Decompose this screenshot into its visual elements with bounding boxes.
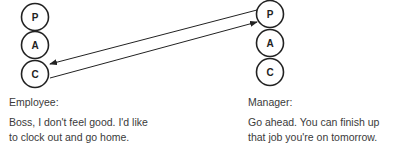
- manager-a-letter: A: [266, 38, 273, 49]
- manager-p-letter: P: [267, 9, 274, 20]
- manager-c-letter: C: [266, 67, 273, 78]
- manager-label: Manager:: [248, 96, 292, 108]
- employee-c-letter: C: [31, 69, 38, 80]
- manager-line-1: Go ahead. You can finish up: [248, 115, 379, 130]
- employee-line-1: Boss, I don't feel good. I'd like: [9, 115, 148, 130]
- employee-line-2: to clock out and go home.: [9, 130, 129, 145]
- employee-a-letter: A: [31, 40, 38, 51]
- arrow-manager-to-employee: [50, 10, 257, 64]
- arrow-employee-to-manager: [50, 22, 257, 78]
- employee-p-letter: P: [32, 12, 39, 23]
- employee-label: Employee:: [9, 96, 59, 108]
- manager-line-2: that job you're on tomorrow.: [248, 130, 377, 145]
